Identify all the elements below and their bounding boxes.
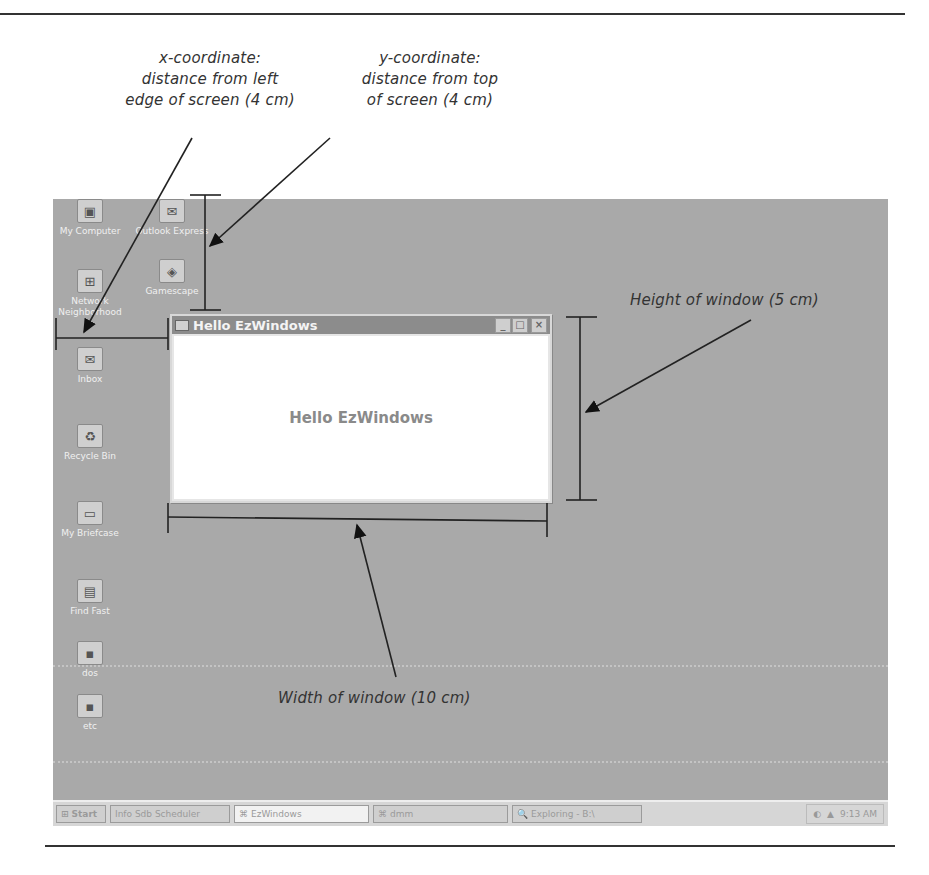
dos-icon: ▪ [77,641,103,665]
desktop-icon-label: Find Fast [53,606,127,617]
network-tray-icon[interactable]: ▲ [827,809,834,819]
close-button[interactable]: × [531,318,547,333]
desktop-icon-label: etc [53,721,127,732]
window-title-bar[interactable]: Hello EzWindows _ □ × [172,316,550,334]
start-label: Start [72,809,98,819]
desktop-icon-label: Gamescape [135,286,209,297]
taskbar-button-dmm[interactable]: ⌘ dmm [373,805,508,823]
taskbar-button-ezwindows[interactable]: ⌘ EzWindows [234,805,369,823]
explorer-icon: 🔍 [517,809,528,819]
desktop-icon-recycle-bin[interactable]: ♻ Recycle Bin [53,424,127,462]
find-fast-icon: ▤ [77,579,103,603]
taskbar-button-label: Exploring - B:\ [531,809,595,819]
desktop-icon-label: Outlook Express [135,226,209,237]
desktop-icon-dos[interactable]: ▪ dos [53,641,127,679]
desktop-icon-label: Recycle Bin [53,451,127,462]
taskbar-button-scheduler[interactable]: Info Sdb Scheduler [110,805,230,823]
scanline-artifact [53,665,888,667]
window-system-icon[interactable] [175,320,189,331]
system-tray: ◐ ▲ 9:13 AM [806,804,884,824]
scanline-artifact [53,761,888,763]
app-icon: ⌘ [378,809,387,819]
annotation-line: y-coordinate: [330,48,530,69]
desktop-icon-outlook[interactable]: ✉ Outlook Express [135,199,209,237]
desktop-icon-find-fast[interactable]: ▤ Find Fast [53,579,127,617]
gamescape-icon: ◈ [159,259,185,283]
minimize-button[interactable]: _ [495,318,511,333]
top-rule [0,13,905,15]
annotation-line: edge of screen (4 cm) [100,90,320,111]
taskbar: ⊞ Start Info Sdb Scheduler ⌘ EzWindows ⌘… [53,800,888,826]
windows-logo-icon: ⊞ [61,809,69,819]
taskbar-button-label: Info Sdb Scheduler [115,809,200,819]
desktop-icon-label: Inbox [53,374,127,385]
taskbar-button-exploring[interactable]: 🔍 Exploring - B:\ [512,805,642,823]
window-title: Hello EzWindows [193,318,494,333]
height-annotation: Height of window (5 cm) [630,290,870,311]
etc-icon: ▪ [77,694,103,718]
briefcase-icon: ▭ [77,501,103,525]
desktop-icon-etc[interactable]: ▪ etc [53,694,127,732]
desktop-icon-briefcase[interactable]: ▭ My Briefcase [53,501,127,539]
annotation-line: distance from left [100,69,320,90]
annotation-line: of screen (4 cm) [330,90,530,111]
window-body-text: Hello EzWindows [289,409,433,427]
recycle-bin-icon: ♻ [77,424,103,448]
desktop-icon-label: My Computer [53,226,127,237]
x-coordinate-annotation: x-coordinate: distance from left edge of… [100,48,320,111]
taskbar-button-label: EzWindows [251,809,302,819]
maximize-button[interactable]: □ [512,318,528,333]
clock[interactable]: 9:13 AM [840,809,877,819]
desktop-icon-inbox[interactable]: ✉ Inbox [53,347,127,385]
desktop-icon-label: My Briefcase [53,528,127,539]
window-client-area: Hello EzWindows [174,336,548,499]
y-coordinate-annotation: y-coordinate: distance from top of scree… [330,48,530,111]
bottom-rule [45,845,895,847]
width-annotation: Width of window (10 cm) [278,688,518,709]
inbox-icon: ✉ [77,347,103,371]
outlook-icon: ✉ [159,199,185,223]
desktop-icon-my-computer[interactable]: ▣ My Computer [53,199,127,237]
desktop-icon-gamescape[interactable]: ◈ Gamescape [135,259,209,297]
start-button[interactable]: ⊞ Start [56,805,106,823]
taskbar-button-label: dmm [390,809,413,819]
computer-icon: ▣ [77,199,103,223]
volume-icon[interactable]: ◐ [813,809,821,819]
network-icon: ⊞ [77,269,103,293]
app-icon: ⌘ [239,809,248,819]
desktop-icon-label: Network Neighborhood [53,296,127,318]
annotation-line: distance from top [330,69,530,90]
hello-ezwindows-window[interactable]: Hello EzWindows _ □ × Hello EzWindows [170,314,552,503]
annotation-line: x-coordinate: [100,48,320,69]
desktop-icon-label: dos [53,668,127,679]
desktop-icon-network[interactable]: ⊞ Network Neighborhood [53,269,127,318]
